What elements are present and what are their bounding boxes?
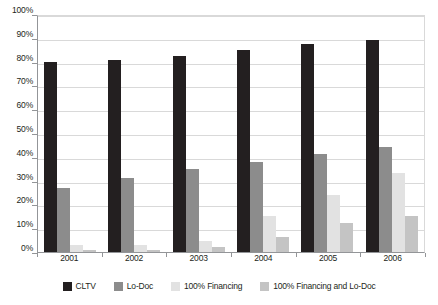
x-tick-label: 2001: [60, 254, 78, 263]
bar: [147, 250, 160, 252]
bar-group-2004: [237, 16, 289, 252]
bar: [340, 223, 353, 252]
bar: [314, 154, 327, 252]
y-tick-label: 100%: [12, 6, 33, 15]
bar: [57, 188, 70, 252]
chart-legend: CLTVLo-Doc100% Financing100% Financing a…: [0, 278, 438, 294]
bar: [392, 173, 405, 252]
bar: [301, 44, 314, 252]
bar: [263, 216, 276, 252]
bar: [237, 50, 250, 252]
bar-group-2003: [173, 16, 225, 252]
bar: [327, 195, 340, 252]
legend-label: CLTV: [76, 282, 96, 291]
bar: [276, 237, 289, 252]
legend-item[interactable]: 100% Financing and Lo-Doc: [260, 282, 375, 291]
bar-group-2001: [44, 16, 96, 252]
bar: [379, 147, 392, 252]
bar: [70, 245, 83, 252]
bar: [83, 250, 96, 252]
plot-wrapper: 0%10%20%30%40%50%60%70%80%90%100% 200120…: [0, 0, 438, 268]
bar: [212, 247, 225, 252]
x-tick-label: 2006: [384, 254, 402, 263]
y-axis-labels: 0%10%20%30%40%50%60%70%80%90%100%: [0, 10, 33, 253]
legend-swatch-icon: [63, 282, 72, 291]
legend-item[interactable]: Lo-Doc: [114, 282, 153, 291]
legend-swatch-icon: [171, 282, 180, 291]
bar: [366, 40, 379, 252]
legend-label: 100% Financing and Lo-Doc: [273, 282, 375, 291]
bar-group-2002: [108, 16, 160, 252]
x-tick-label: 2004: [254, 254, 272, 263]
bar: [250, 162, 263, 252]
x-tick-label: 2002: [125, 254, 143, 263]
bar: [186, 169, 199, 252]
x-tick-label: 2005: [319, 254, 337, 263]
bar-group-2005: [301, 16, 353, 252]
bar: [405, 216, 418, 252]
legend-label: Lo-Doc: [127, 282, 153, 291]
legend-swatch-icon: [114, 282, 123, 291]
bar-group-2006: [366, 16, 418, 252]
legend-item[interactable]: 100% Financing: [171, 282, 242, 291]
x-axis-labels: 200120022003200420052006: [37, 254, 425, 268]
bar: [199, 241, 212, 252]
bar-groups: [38, 16, 424, 252]
plot-area: [37, 15, 425, 253]
legend-label: 100% Financing: [184, 282, 242, 291]
x-tick-label: 2003: [190, 254, 208, 263]
bar: [173, 56, 186, 252]
legend-item[interactable]: CLTV: [63, 282, 96, 291]
bar: [108, 60, 121, 252]
legend-swatch-icon: [260, 282, 269, 291]
bar: [44, 62, 57, 252]
bar: [121, 178, 134, 252]
bar-chart: 0%10%20%30%40%50%60%70%80%90%100% 200120…: [0, 0, 438, 305]
bar: [134, 245, 147, 252]
x-tick-mark: [425, 253, 426, 257]
